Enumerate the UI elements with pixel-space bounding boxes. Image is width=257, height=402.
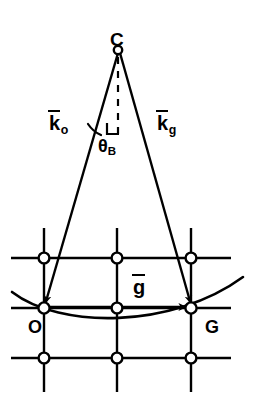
diffracted-wavevector-kg [120,53,191,303]
label-origin-o: O [28,318,42,336]
label-ko-base: k [49,113,60,133]
lattice-point [186,353,197,364]
lattice-point [39,253,50,264]
label-g-base: g [133,277,145,297]
label-ko-subscript: o [61,123,69,137]
label-diffracted-wavevector-kg: kg [157,113,176,133]
label-kg-subscript: g [169,123,177,137]
label-kg-base: k [157,113,168,133]
ewald-sphere-diagram: C O G ko kg g θB [0,0,257,402]
label-theta-symbol: θ [98,136,108,156]
lattice-point [112,353,123,364]
lattice-point [39,353,50,364]
label-bragg-angle: θB [98,137,116,155]
diagram-canvas [0,0,257,402]
incident-wavevector-ko [46,53,119,303]
label-reflection-g: G [205,318,219,336]
lattice-point [112,253,123,264]
lattice-point-o [38,302,49,313]
label-incident-wavevector-ko: ko [49,113,68,133]
lattice-point-g [185,302,196,313]
lattice-point [112,303,123,314]
label-centre-c: C [110,30,124,49]
label-theta-subscript: B [108,145,116,157]
lattice-point [186,253,197,264]
label-lattice-vector-g: g [133,277,145,297]
